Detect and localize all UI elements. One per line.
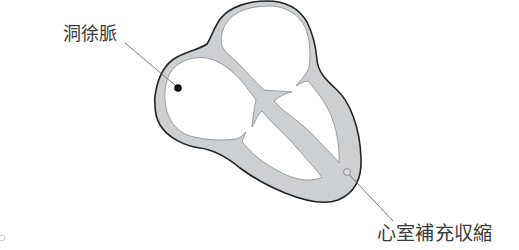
leader-line-ventricular (350, 175, 394, 221)
ventricular-focus-circle-icon (344, 169, 351, 176)
sinus-node-dot-icon (174, 84, 182, 92)
heart-diagram: 洞徐脈 心室補充収縮 (0, 0, 519, 250)
label-sinus-bradycardia: 洞徐脈 (63, 23, 117, 44)
corner-mark-icon (0, 235, 5, 241)
label-ventricular-escape: 心室補充収縮 (377, 222, 492, 244)
diagram-canvas: 洞徐脈 心室補充収縮 (0, 0, 519, 250)
